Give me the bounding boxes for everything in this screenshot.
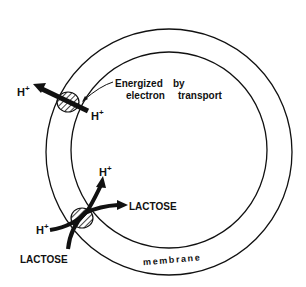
lactose-inside-label: LACTOSE bbox=[129, 201, 177, 212]
energized-label-transport: transport bbox=[178, 90, 223, 101]
h-plus-out-bottom: H+ bbox=[99, 164, 112, 178]
energized-label-line2: electron bbox=[126, 90, 165, 101]
inner-membrane-circle bbox=[71, 52, 267, 248]
h-plus-out-top: H+ bbox=[17, 84, 30, 98]
energized-label-by: by bbox=[173, 78, 185, 89]
arrow-head-icon bbox=[117, 200, 128, 210]
outer-membrane-circle bbox=[46, 29, 292, 275]
label-pointer bbox=[84, 82, 113, 100]
membrane-diagram: H+ H+ Energized by electron transport H+… bbox=[0, 0, 306, 287]
lactose-outside-label: LACTOSE bbox=[20, 254, 68, 265]
proton-pump bbox=[33, 83, 88, 112]
h-plus-in-bottom: H+ bbox=[36, 222, 49, 236]
h-plus-in-top: H+ bbox=[91, 108, 104, 122]
membrane-label: membrane bbox=[143, 252, 202, 267]
energized-label-line1: Energized bbox=[115, 78, 163, 89]
